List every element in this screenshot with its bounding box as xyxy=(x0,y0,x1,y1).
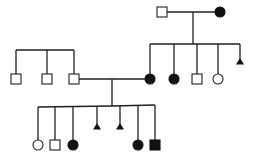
male-unaffected-II-2 xyxy=(42,74,52,84)
miscarriage-triangle-III-5 xyxy=(117,124,123,129)
female-affected-III-6 xyxy=(133,140,143,150)
female-affected-III-3 xyxy=(68,140,78,150)
miscarriage-triangle-II-8 xyxy=(237,59,243,64)
female-unaffected-III-1 xyxy=(33,140,43,150)
male-unaffected-I-1 xyxy=(157,7,167,17)
female-unaffected-II-7 xyxy=(213,74,223,84)
generation-2-right-sibship xyxy=(145,44,243,84)
male-unaffected-III-2 xyxy=(50,140,60,150)
generation-3 xyxy=(33,105,160,150)
female-affected-II-5 xyxy=(169,74,179,84)
generation-1 xyxy=(157,7,225,44)
female-affected-II-4 xyxy=(145,74,155,84)
female-affected-I-2 xyxy=(215,7,225,17)
male-unaffected-II-3 xyxy=(69,74,79,84)
miscarriage-triangle-III-4 xyxy=(94,124,100,129)
male-unaffected-II-1 xyxy=(11,74,21,84)
male-affected-III-7 xyxy=(150,140,160,150)
generation-2-left-sibship xyxy=(11,50,79,84)
male-unaffected-II-6 xyxy=(192,74,202,84)
mating-II xyxy=(79,79,145,106)
pedigree-chart xyxy=(0,0,254,159)
